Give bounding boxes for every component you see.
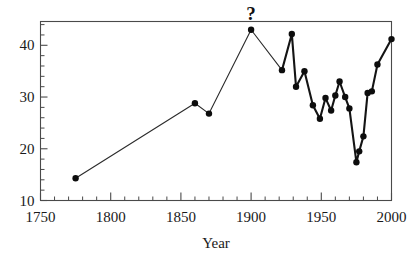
data-series <box>72 27 394 182</box>
data-point-marker <box>369 88 375 94</box>
y-tick-label: 40 <box>20 37 35 53</box>
plot-frame <box>41 22 392 201</box>
data-point-marker <box>248 27 254 33</box>
data-point-marker <box>332 92 338 98</box>
y-tick-label: 20 <box>20 141 35 157</box>
data-point-marker <box>353 159 359 165</box>
data-point-marker <box>328 107 334 113</box>
y-axis-tick-labels: 10203040 <box>20 37 35 208</box>
y-tick-label: 10 <box>20 193 35 209</box>
y-tick-label: 30 <box>20 89 35 105</box>
x-tick-label: 1950 <box>306 209 336 225</box>
data-point-marker <box>322 95 328 101</box>
data-point-marker <box>192 100 198 106</box>
data-point-marker <box>279 67 285 73</box>
x-axis-tick-labels: 175018001850190019502000 <box>26 209 407 225</box>
data-point-marker <box>342 94 348 100</box>
data-point-marker <box>293 83 299 89</box>
chart-figure: 10203040 175018001850190019502000 ? Year <box>0 0 414 254</box>
y-axis-ticks <box>41 25 48 201</box>
series-line-sparse <box>76 30 282 178</box>
data-point-marker <box>388 36 394 42</box>
x-tick-label: 1800 <box>96 209 126 225</box>
x-tick-label: 2000 <box>377 209 407 225</box>
x-tick-label: 1900 <box>236 209 266 225</box>
x-axis-title: Year <box>202 235 230 251</box>
data-point-marker <box>360 133 366 139</box>
x-axis-ticks <box>41 193 392 201</box>
data-point-marker <box>317 116 323 122</box>
line-chart: 10203040 175018001850190019502000 ? Year <box>0 0 414 254</box>
data-point-marker <box>346 105 352 111</box>
data-point-marker <box>206 110 212 116</box>
data-point-marker <box>336 78 342 84</box>
data-point-marker <box>356 148 362 154</box>
data-point-marker <box>301 68 307 74</box>
data-point-marker <box>374 61 380 67</box>
data-point-marker <box>72 175 78 181</box>
data-point-marker <box>310 102 316 108</box>
series-markers <box>72 27 394 182</box>
x-tick-label: 1750 <box>26 209 56 225</box>
x-tick-label: 1850 <box>166 209 196 225</box>
chart-annotations: ? <box>246 3 256 24</box>
annotation-question-mark: ? <box>246 3 256 24</box>
data-point-marker <box>289 31 295 37</box>
